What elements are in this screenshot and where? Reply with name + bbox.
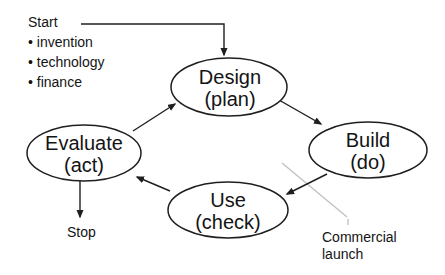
node-build-sublabel: (do) <box>350 151 386 173</box>
arrow-design-to-build <box>279 100 321 124</box>
start-bullet-finance: • finance <box>28 74 82 90</box>
stop-label: Stop <box>67 224 96 240</box>
node-design: Design (plan) <box>171 58 287 116</box>
node-evaluate-label: Evaluate <box>45 132 123 154</box>
arrow-evaluate-to-design <box>133 104 175 131</box>
node-use: Use (check) <box>168 182 288 238</box>
diagram-svg: Start • invention • technology • finance… <box>0 0 445 275</box>
arrow-start-to-design <box>81 24 224 55</box>
node-evaluate-sublabel: (act) <box>64 154 104 176</box>
start-bullet-technology: • technology <box>28 54 105 70</box>
arrow-build-to-use <box>287 174 327 194</box>
node-use-label: Use <box>210 189 246 211</box>
node-build-label: Build <box>346 129 390 151</box>
commercial-launch-label-line2: launch <box>322 246 363 262</box>
commercial-launch-label-line1: Commercial <box>322 229 397 245</box>
node-design-sublabel: (plan) <box>204 88 255 110</box>
node-evaluate: Evaluate (act) <box>27 125 141 181</box>
node-design-label: Design <box>199 66 261 88</box>
start-bullet-invention: • invention <box>28 34 93 50</box>
pdca-cycle-diagram: Start • invention • technology • finance… <box>0 0 445 275</box>
arrow-use-to-evaluate <box>137 177 170 191</box>
start-label: Start <box>28 14 58 30</box>
node-build: Build (do) <box>309 122 427 178</box>
node-use-sublabel: (check) <box>195 211 261 233</box>
